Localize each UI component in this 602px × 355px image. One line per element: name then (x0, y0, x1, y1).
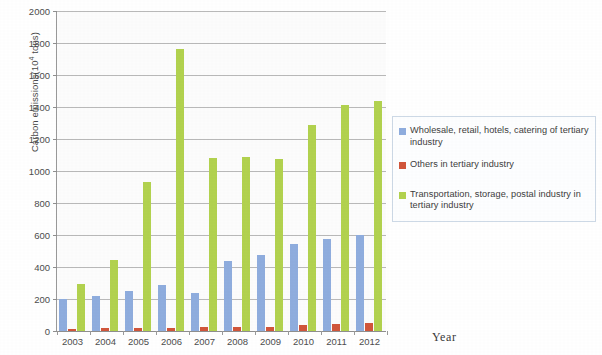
legend-item-2[interactable]: Transportation, storage, postal industry… (399, 189, 589, 212)
legend-label-2: Transportation, storage, postal industry… (410, 189, 589, 212)
legend-item-1[interactable]: Others in tertiary industry (399, 159, 589, 171)
bar-2009-series-2[interactable] (275, 159, 283, 331)
y-axis-tick-2000: 2000 (12, 6, 50, 17)
bar-2005-series-0[interactable] (125, 291, 133, 331)
legend-label-0: Wholesale, retail, hotels, catering of t… (410, 125, 589, 148)
bar-2012-series-2[interactable] (374, 101, 382, 331)
x-tick-mark-2008 (222, 331, 223, 335)
bar-2008-series-2[interactable] (242, 157, 250, 331)
bar-2006-series-2[interactable] (176, 49, 184, 331)
y-axis-tick-800: 800 (12, 198, 50, 209)
chart-legend: Wholesale, retail, hotels, catering of t… (392, 116, 596, 222)
x-tick-mark-2010 (288, 331, 289, 335)
x-axis-tick-2009: 2009 (260, 336, 281, 347)
bar-2007-series-2[interactable] (209, 158, 217, 331)
bar-groups (57, 11, 386, 331)
x-axis-tick-labels: 2003200420052006200720082009201020112012 (56, 336, 386, 354)
x-tick-mark-2009 (255, 331, 256, 335)
bar-2006-series-0[interactable] (158, 285, 166, 331)
bar-group-2009 (255, 11, 288, 331)
legend-label-1: Others in tertiary industry (410, 159, 514, 171)
bar-2010-series-0[interactable] (290, 244, 298, 331)
legend-swatch-icon-0 (399, 128, 406, 135)
bar-group-2006 (156, 11, 189, 331)
bar-2010-series-1[interactable] (299, 325, 307, 331)
bar-2011-series-1[interactable] (332, 324, 340, 331)
x-tick-mark-end (387, 331, 388, 335)
x-axis-tick-2012: 2012 (359, 336, 380, 347)
y-axis-tick-1200: 1200 (12, 134, 50, 145)
bar-2012-series-1[interactable] (365, 323, 373, 331)
y-axis-tick-1800: 1800 (12, 38, 50, 49)
bar-group-2011 (321, 11, 354, 331)
bar-2003-series-1[interactable] (68, 329, 76, 331)
bar-2008-series-0[interactable] (224, 261, 232, 331)
bar-2011-series-0[interactable] (323, 239, 331, 331)
bar-2004-series-0[interactable] (92, 296, 100, 331)
y-axis-tick-400: 400 (12, 262, 50, 273)
x-axis-tick-2007: 2007 (194, 336, 215, 347)
bar-2004-series-2[interactable] (110, 260, 118, 331)
chart-figure: Carbon emissions(104 tons) 0200400600800… (0, 0, 602, 355)
x-axis-tick-2006: 2006 (161, 336, 182, 347)
x-tick-mark-2011 (321, 331, 322, 335)
x-tick-mark-2006 (156, 331, 157, 335)
x-tick-mark-2004 (90, 331, 91, 335)
bar-group-2012 (354, 11, 387, 331)
bar-2007-series-1[interactable] (200, 327, 208, 331)
bar-group-2003 (57, 11, 90, 331)
x-axis-tick-2003: 2003 (62, 336, 83, 347)
x-axis-tick-2010: 2010 (293, 336, 314, 347)
bar-2009-series-1[interactable] (266, 327, 274, 331)
bar-group-2010 (288, 11, 321, 331)
bar-2005-series-2[interactable] (143, 182, 151, 331)
y-axis-tick-200: 200 (12, 294, 50, 305)
y-axis-tick-1400: 1400 (12, 102, 50, 113)
x-tick-mark-2007 (189, 331, 190, 335)
bar-2004-series-1[interactable] (101, 328, 109, 331)
bar-2003-series-2[interactable] (77, 284, 85, 331)
bar-2012-series-0[interactable] (356, 235, 364, 331)
x-axis-tick-2011: 2011 (326, 336, 346, 347)
bar-group-2007 (189, 11, 222, 331)
bar-2011-series-2[interactable] (341, 105, 349, 331)
bar-2010-series-2[interactable] (308, 125, 316, 331)
x-tick-mark-2012 (354, 331, 355, 335)
y-axis-tick-1000: 1000 (12, 166, 50, 177)
y-axis-tick-1600: 1600 (12, 70, 50, 81)
x-axis-tick-2008: 2008 (227, 336, 248, 347)
bar-2005-series-1[interactable] (134, 328, 142, 331)
legend-item-0[interactable]: Wholesale, retail, hotels, catering of t… (399, 125, 589, 148)
bar-group-2008 (222, 11, 255, 331)
y-axis-tick-labels: 0200400600800100012001400160018002000 (12, 0, 50, 355)
x-axis-tick-2005: 2005 (128, 336, 149, 347)
bar-2008-series-1[interactable] (233, 327, 241, 331)
y-axis-tick-0: 0 (12, 326, 50, 337)
bar-2009-series-0[interactable] (257, 255, 265, 331)
bar-group-2005 (123, 11, 156, 331)
x-tick-mark-2003 (57, 331, 58, 335)
x-axis-label: Year (432, 330, 457, 345)
bar-group-2004 (90, 11, 123, 331)
bar-2003-series-0[interactable] (59, 299, 67, 331)
y-axis-tick-600: 600 (12, 230, 50, 241)
legend-swatch-icon-2 (399, 192, 406, 199)
plot-area (56, 11, 386, 331)
bar-2007-series-0[interactable] (191, 293, 199, 331)
bar-2006-series-1[interactable] (167, 328, 175, 331)
legend-swatch-icon-1 (399, 162, 406, 169)
x-axis-tick-2004: 2004 (95, 336, 116, 347)
x-tick-mark-2005 (123, 331, 124, 335)
